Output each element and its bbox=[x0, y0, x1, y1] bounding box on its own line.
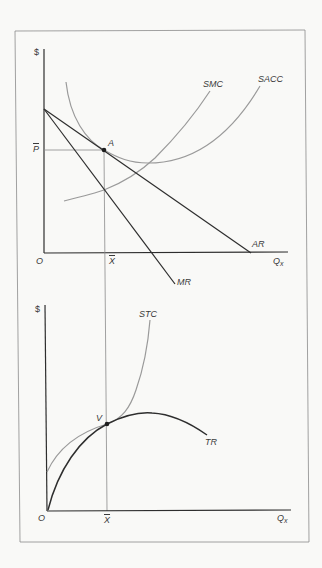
stc-curve bbox=[47, 320, 150, 472]
mr-label: MR bbox=[177, 278, 191, 287]
bottom-x-axis bbox=[47, 510, 291, 511]
top-x-axis bbox=[44, 252, 288, 253]
bottom-y-axis bbox=[45, 305, 47, 511]
top-origin-label: O bbox=[36, 257, 43, 266]
top-x-axis-label: Qx bbox=[273, 257, 284, 266]
monopoly-equilibrium-diagram: $ SMC SACC A P O X AR Qx MR $ STC V TR O… bbox=[0, 0, 322, 568]
top-panel bbox=[44, 49, 288, 511]
point-a-label: A bbox=[108, 139, 114, 148]
quantity-guide-line bbox=[104, 150, 107, 511]
tr-label: TR bbox=[205, 438, 217, 447]
top-y-axis-label: $ bbox=[34, 48, 39, 57]
ar-curve bbox=[44, 109, 251, 253]
top-quantity-label: X bbox=[109, 257, 115, 266]
figure-frame bbox=[15, 30, 309, 542]
stc-label: STC bbox=[139, 310, 157, 319]
point-v-label: V bbox=[96, 414, 102, 423]
bottom-y-axis-label: $ bbox=[35, 305, 40, 314]
bottom-quantity-label: X bbox=[104, 516, 110, 525]
equilibrium-point-a bbox=[102, 148, 107, 153]
sacc-label: SACC bbox=[258, 75, 283, 84]
tangency-point-v bbox=[105, 422, 110, 427]
bottom-x-axis-label-main: Q bbox=[277, 513, 284, 523]
ar-label: AR bbox=[252, 240, 265, 249]
bottom-x-axis-label: Qx bbox=[277, 514, 288, 523]
bottom-x-axis-label-sub: x bbox=[284, 517, 288, 524]
tr-curve bbox=[48, 413, 207, 510]
bottom-panel bbox=[45, 305, 291, 511]
bottom-origin-label: O bbox=[38, 514, 45, 523]
diagram-canvas bbox=[0, 0, 322, 568]
smc-label: SMC bbox=[203, 80, 223, 89]
top-x-axis-label-sub: x bbox=[280, 260, 284, 267]
price-label: P bbox=[33, 145, 39, 154]
top-x-axis-label-main: Q bbox=[273, 256, 280, 266]
sacc-curve bbox=[66, 82, 260, 163]
smc-curve bbox=[64, 91, 210, 201]
